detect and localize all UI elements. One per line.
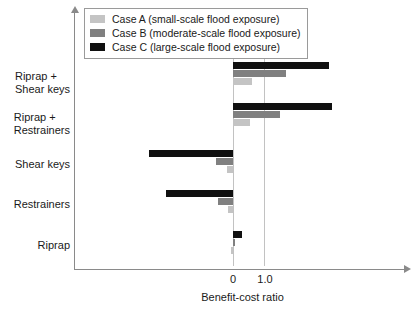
legend-item-case-a: Case A (small-scale flood exposure)	[90, 12, 301, 26]
bar-case-c-riprap	[233, 231, 242, 238]
category-label-restrainers: Restrainers	[14, 198, 70, 211]
bar-case-a-riprap-shear-keys	[233, 78, 252, 85]
legend-label-case-b: Case B (moderate-scale flood exposure)	[112, 27, 301, 39]
bar-case-b-restrainers	[218, 198, 234, 205]
bar-case-c-restrainers	[166, 190, 233, 197]
bar-case-c-shear-keys	[149, 150, 233, 157]
x-axis-line	[74, 269, 404, 270]
benefit-cost-ratio-chart: Riprap + Shear keys Riprap + Restrainers…	[0, 0, 419, 314]
chart-legend: Case A (small-scale flood exposure) Case…	[84, 8, 308, 59]
legend-label-case-a: Case A (small-scale flood exposure)	[112, 13, 280, 25]
category-label-line: Riprap	[38, 239, 70, 252]
bar-case-b-riprap-restrainers	[233, 111, 280, 118]
bar-case-b-riprap	[233, 239, 235, 246]
x-tick-label-1: 1.0	[257, 273, 272, 285]
y-axis-category-labels: Riprap + Shear keys Riprap + Restrainers…	[2, 8, 70, 270]
legend-label-case-c: Case C (large-scale flood exposure)	[112, 41, 280, 53]
category-label-line: Restrainers	[14, 198, 70, 211]
bar-case-a-riprap	[231, 247, 233, 254]
category-label-shear-keys: Shear keys	[15, 158, 70, 171]
category-label-riprap-restrainers: Riprap + Restrainers	[14, 111, 70, 137]
x-tick-label-0: 0	[230, 273, 236, 285]
category-label-line: Riprap +	[14, 111, 70, 124]
category-label-riprap-shear-keys: Riprap + Shear keys	[15, 70, 70, 96]
category-label-line: Shear keys	[15, 83, 70, 96]
y-axis-line	[74, 12, 75, 270]
legend-swatch-case-b	[90, 29, 105, 37]
y-axis-arrow-icon	[71, 6, 79, 13]
bar-case-a-shear-keys	[227, 166, 233, 173]
category-label-line: Riprap +	[15, 70, 70, 83]
category-label-line: Shear keys	[15, 158, 70, 171]
legend-swatch-case-c	[90, 43, 105, 51]
x-axis-arrow-icon	[404, 265, 411, 273]
category-label-riprap: Riprap	[38, 239, 70, 252]
bar-case-a-restrainers	[228, 206, 233, 213]
bar-case-c-riprap-restrainers	[233, 103, 332, 110]
bar-case-c-riprap-shear-keys	[233, 62, 329, 69]
bar-case-b-riprap-shear-keys	[233, 70, 286, 77]
x-axis-title: Benefit-cost ratio	[74, 291, 411, 303]
legend-item-case-c: Case C (large-scale flood exposure)	[90, 40, 301, 54]
legend-swatch-case-a	[90, 15, 105, 23]
legend-item-case-b: Case B (moderate-scale flood exposure)	[90, 26, 301, 40]
category-label-line: Restrainers	[14, 124, 70, 137]
bar-case-b-shear-keys	[216, 158, 233, 165]
bar-case-a-riprap-restrainers	[233, 119, 250, 126]
